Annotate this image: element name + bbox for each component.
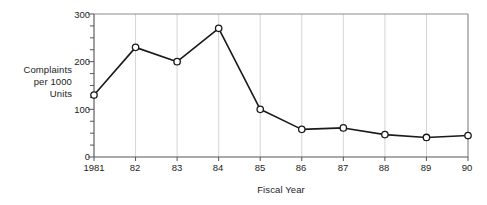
axis-ticks	[88, 14, 468, 161]
data-line	[94, 28, 468, 137]
plot-area	[0, 0, 487, 205]
complaints-line-chart: Complaints per 1000 Units Fiscal Year 30…	[0, 0, 487, 205]
grid-lines	[94, 14, 468, 157]
axis-frame	[94, 14, 468, 157]
data-markers	[91, 25, 471, 141]
